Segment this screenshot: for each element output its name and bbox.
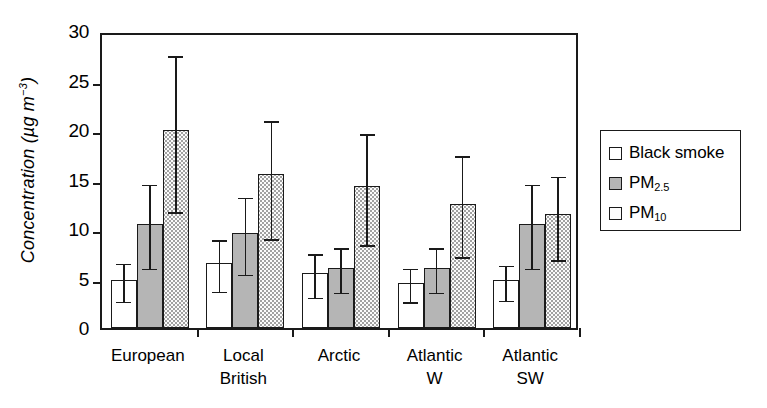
x-axis-tick (579, 328, 581, 337)
error-bar-cap-lower (308, 298, 323, 300)
y-axis-title-tail: ) (18, 77, 38, 83)
error-bar-cap-lower (212, 292, 227, 294)
error-bar-line (340, 249, 342, 294)
legend-swatch-pm10 (609, 207, 622, 220)
y-axis-tick (93, 282, 102, 284)
y-axis-title-text: Concentration (µg m (18, 96, 38, 263)
error-bar-cap-lower (551, 260, 566, 262)
error-bar-cap-lower (238, 275, 253, 277)
y-axis-title: Concentration (µg m−3) (17, 77, 39, 263)
y-axis-title-exponent: −3 (17, 83, 29, 96)
error-bar-line (123, 265, 125, 303)
x-axis-tick (197, 328, 199, 337)
error-bar-line (271, 122, 273, 240)
error-bar-cap-lower (455, 257, 470, 259)
x-axis-label-5: AtlanticSW (470, 344, 590, 390)
legend-label-subscript: 10 (654, 211, 666, 223)
x-axis-tick (483, 328, 485, 337)
y-axis-tick-label: 30 (49, 21, 89, 43)
error-bar-line (219, 241, 221, 292)
error-bar-cap-lower (334, 293, 349, 295)
error-bar-cap-lower (116, 302, 131, 304)
bar-chart-figure: Concentration (µg m−3) 051015202530 Euro… (0, 0, 767, 408)
legend-label-text: PM (629, 173, 654, 192)
y-axis-tick (93, 232, 102, 234)
error-bar-cap-upper (238, 198, 253, 200)
y-axis-tick (93, 84, 102, 86)
error-bar-cap-upper (168, 56, 183, 58)
error-bar-cap-lower (142, 269, 157, 271)
error-bar-cap-upper (360, 134, 375, 136)
error-bar-line (410, 270, 412, 304)
error-bar-line (175, 57, 177, 213)
error-bar-cap-lower (360, 245, 375, 247)
legend-label-black-smoke: Black smoke (629, 143, 724, 163)
legend-item-black-smoke[interactable]: Black smoke (609, 138, 740, 168)
error-bar-cap-lower (525, 269, 540, 271)
error-bar-cap-lower (168, 212, 183, 214)
legend-swatch-pm25 (609, 177, 622, 190)
y-axis-tick-label: 0 (49, 318, 89, 340)
legend-label-pm25: PM2.5 (629, 173, 669, 193)
error-bar-line (436, 249, 438, 294)
error-bar-line (366, 135, 368, 246)
legend-item-pm10[interactable]: PM10 (609, 198, 740, 228)
error-bar-line (314, 255, 316, 299)
error-bar-cap-upper (212, 240, 227, 242)
x-axis-label-line: British (183, 367, 303, 390)
x-axis-label-line: SW (470, 367, 590, 390)
plot-inner (102, 35, 576, 328)
error-bar-line (149, 185, 151, 269)
x-axis-tick (292, 328, 294, 337)
y-axis-tick-label: 15 (49, 170, 89, 192)
x-axis-label-line: Atlantic (470, 344, 590, 367)
x-axis-tick (388, 328, 390, 337)
y-axis-title-container: Concentration (µg m−3) (0, 0, 56, 340)
error-bar-cap-lower (264, 239, 279, 241)
plot-area (100, 33, 578, 330)
error-bar-cap-upper (334, 248, 349, 250)
y-axis-tick-label: 20 (49, 120, 89, 142)
error-bar-cap-upper (455, 156, 470, 158)
error-bar-line (462, 157, 464, 258)
error-bar-line (531, 185, 533, 269)
error-bar-cap-lower (403, 302, 418, 304)
error-bar-cap-upper (116, 264, 131, 266)
y-axis-tick-label: 10 (49, 219, 89, 241)
error-bar-cap-lower (429, 293, 444, 295)
error-bar-cap-upper (429, 248, 444, 250)
error-bar-line (245, 198, 247, 275)
legend-label-pm10: PM10 (629, 203, 666, 223)
y-axis-tick-label: 5 (49, 269, 89, 291)
legend-label-text: PM (629, 203, 654, 222)
error-bar-cap-upper (403, 269, 418, 271)
error-bar-cap-upper (308, 254, 323, 256)
legend: Black smokePM2.5PM10 (600, 130, 741, 231)
error-bar-cap-upper (142, 185, 157, 187)
error-bar-cap-lower (499, 301, 514, 303)
y-axis-tick (93, 183, 102, 185)
error-bar-line (557, 178, 559, 261)
y-axis-tick-label: 25 (49, 71, 89, 93)
error-bar-cap-upper (264, 121, 279, 123)
legend-item-pm25[interactable]: PM2.5 (609, 168, 740, 198)
legend-swatch-black-smoke (609, 147, 622, 160)
error-bar-line (505, 267, 507, 302)
error-bar-cap-upper (499, 266, 514, 268)
error-bar-cap-upper (551, 177, 566, 179)
error-bar-cap-upper (525, 185, 540, 187)
legend-label-subscript: 2.5 (654, 181, 669, 193)
y-axis-tick (93, 133, 102, 135)
